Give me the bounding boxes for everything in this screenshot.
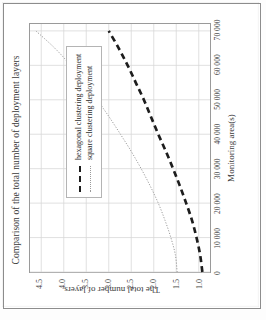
- chart-figure: Comparison of the total number of deploy…: [7, 7, 259, 313]
- x-tick-label: 0: [213, 271, 222, 275]
- legend-item-hexagonal: hexagonal clustering deployment: [74, 54, 83, 192]
- x-axis-title: Monitoring area(s): [226, 23, 236, 273]
- chart-title: Comparison of the total number of deploy…: [11, 7, 21, 313]
- series-line-hexagonal-clustering: [109, 31, 203, 272]
- x-tick-label: 20 000: [213, 193, 222, 214]
- figure-page: Comparison of the total number of deploy…: [0, 0, 266, 320]
- x-tick-label: 30 000: [213, 158, 222, 179]
- series-curves: [30, 24, 210, 272]
- rotated-figure-wrapper: Comparison of the total number of deploy…: [7, 7, 259, 313]
- grid-layer: [30, 24, 210, 272]
- y-axis-title: The total number of layers: [21, 285, 203, 295]
- x-tick-label: 70 000: [213, 20, 222, 41]
- legend-label: square clustering deployment: [85, 66, 94, 160]
- legend-item-square: square clustering deployment: [85, 54, 94, 192]
- plot-area: hexagonal clustering deployment square c…: [29, 23, 211, 273]
- dashed-line-icon: [74, 166, 83, 192]
- legend-box: hexagonal clustering deployment square c…: [66, 46, 102, 198]
- x-tick-label: 60 000: [213, 54, 222, 75]
- series-line-square-clustering: [36, 31, 177, 272]
- x-tick-label: 50 000: [213, 89, 222, 110]
- x-tick-label: 10 000: [213, 228, 222, 249]
- x-tick-label: 40 000: [213, 124, 222, 145]
- dotted-line-icon: [85, 166, 94, 192]
- legend-label: hexagonal clustering deployment: [74, 54, 83, 160]
